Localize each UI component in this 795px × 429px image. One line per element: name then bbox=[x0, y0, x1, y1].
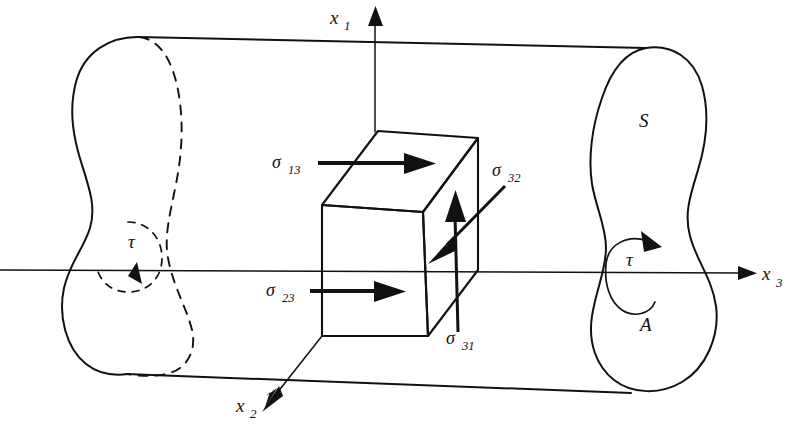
x1-axis bbox=[368, 6, 383, 132]
sigma-23-symbol: σ bbox=[266, 280, 276, 300]
x1-symbol: x bbox=[329, 7, 339, 28]
x3-axis-label: x 3 bbox=[761, 263, 783, 290]
sigma-23-arrow bbox=[310, 281, 406, 302]
sigma-31-label: σ 31 bbox=[446, 328, 475, 353]
sigma-23-subscript: 23 bbox=[282, 291, 295, 305]
x2-axis bbox=[262, 336, 322, 412]
x3-symbol: x bbox=[761, 263, 771, 284]
sigma-31-subscript: 31 bbox=[461, 339, 475, 353]
left-cross-section bbox=[62, 37, 193, 376]
x2-symbol: x bbox=[235, 395, 245, 416]
area-label-A: A bbox=[638, 314, 652, 335]
sigma-13-symbol: σ bbox=[272, 152, 282, 172]
sigma-32-arrow bbox=[428, 186, 505, 264]
torque-label-right: τ bbox=[626, 249, 634, 270]
x1-subscript: 1 bbox=[344, 18, 351, 33]
x1-axis-label: x 1 bbox=[329, 7, 351, 33]
bar-lateral-contours bbox=[126, 37, 646, 393]
stress-element-diagram: x 1 x 2 x 3 σ 13 σ 23 σ 32 σ bbox=[0, 0, 795, 429]
sigma-13-label: σ 13 bbox=[272, 152, 301, 177]
x2-subscript: 2 bbox=[250, 406, 257, 421]
torque-label-left: τ bbox=[128, 231, 136, 252]
sigma-23-label: σ 23 bbox=[266, 280, 295, 305]
figure-canvas: x 1 x 2 x 3 σ 13 σ 23 σ 32 σ bbox=[0, 0, 795, 429]
sigma-32-symbol: σ bbox=[492, 160, 502, 180]
right-cross-section bbox=[590, 47, 716, 391]
surface-label-S: S bbox=[639, 110, 649, 131]
sigma-31-symbol: σ bbox=[446, 328, 456, 348]
sigma-13-subscript: 13 bbox=[288, 163, 301, 177]
sigma-32-subscript: 32 bbox=[507, 171, 521, 185]
x3-axis bbox=[0, 266, 757, 280]
x2-axis-label: x 2 bbox=[235, 395, 257, 421]
x3-subscript: 3 bbox=[775, 275, 783, 290]
sigma-13-arrow bbox=[318, 153, 436, 174]
sigma-32-label: σ 32 bbox=[492, 160, 521, 185]
